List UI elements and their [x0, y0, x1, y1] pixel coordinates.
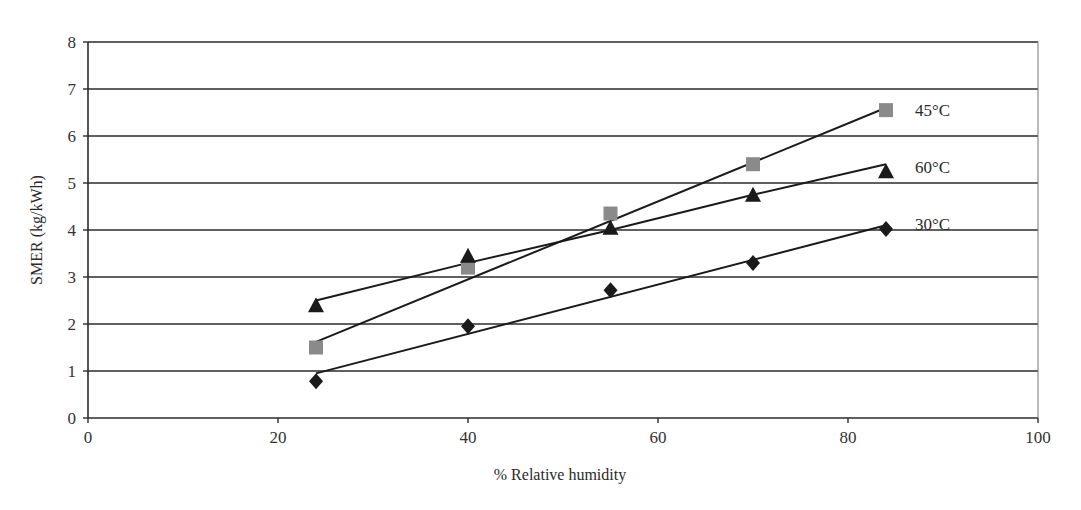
triangle-marker [460, 248, 476, 263]
diamond-marker [746, 255, 760, 271]
series-label: 30°C [915, 215, 950, 234]
y-tick-label: 1 [68, 362, 77, 381]
x-tick-label: 100 [1025, 428, 1051, 447]
y-tick-label: 5 [68, 174, 77, 193]
series-label: 45°C [915, 101, 950, 120]
trendline-60c [316, 164, 886, 300]
y-tick-label: 8 [68, 33, 77, 52]
x-axis-title: % Relative humidity [494, 466, 626, 484]
gridlines [88, 42, 1038, 371]
series-labels: 45°C60°C30°C [915, 101, 950, 234]
x-tick-label: 40 [460, 428, 477, 447]
triangle-marker [603, 220, 619, 235]
x-tick-label: 20 [270, 428, 287, 447]
y-tick-label: 3 [68, 268, 77, 287]
trendlines [316, 108, 886, 374]
x-tick-label: 80 [840, 428, 857, 447]
square-marker [879, 103, 893, 117]
diamond-marker [309, 373, 323, 389]
diamond-marker [879, 221, 893, 237]
y-tick-label: 0 [68, 409, 77, 428]
x-axis-ticks: 020406080100 [84, 418, 1051, 447]
y-tick-label: 4 [68, 221, 77, 240]
x-tick-label: 0 [84, 428, 93, 447]
trendline-30c [316, 225, 886, 373]
square-marker [309, 341, 323, 355]
y-axis-ticks: 012345678 [68, 33, 89, 428]
y-tick-label: 6 [68, 127, 77, 146]
series-label: 60°C [915, 158, 950, 177]
square-marker [746, 157, 760, 171]
x-tick-label: 60 [650, 428, 667, 447]
square-marker [604, 207, 618, 221]
y-tick-label: 2 [68, 315, 77, 334]
chart: 012345678 020406080100 45°C60°C30°C % Re… [0, 0, 1081, 510]
trendline-45c [316, 108, 886, 342]
y-tick-label: 7 [68, 80, 77, 99]
y-axis-title: SMER (kg/kWh) [28, 175, 46, 285]
